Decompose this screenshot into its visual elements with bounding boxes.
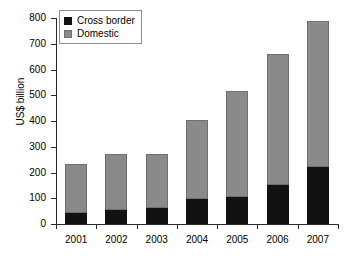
x-tick — [56, 224, 57, 229]
bar-segment-cross-border — [226, 197, 248, 224]
stacked-bar-chart: US$ billion 0100200300400500600700800 20… — [0, 0, 344, 259]
y-tick-label: 800 — [12, 13, 46, 23]
x-tick — [257, 224, 258, 229]
x-tick-label: 2006 — [255, 234, 301, 245]
plot-area: 0100200300400500600700800 20012002200320… — [56, 18, 338, 224]
x-tick — [137, 224, 138, 229]
bar-segment-domestic — [307, 21, 329, 168]
x-tick — [338, 224, 339, 229]
y-tick — [51, 18, 56, 19]
x-tick-label: 2005 — [214, 234, 260, 245]
x-tick-label: 2002 — [93, 234, 139, 245]
y-tick-label: 400 — [12, 116, 46, 126]
bar-segment-cross-border — [105, 210, 127, 224]
bar-segment-cross-border — [186, 199, 208, 224]
bar-2005 — [226, 18, 248, 224]
bar-segment-cross-border — [65, 213, 87, 224]
legend-swatch-domestic — [64, 30, 72, 38]
x-tick-label: 2004 — [174, 234, 220, 245]
y-tick — [51, 147, 56, 148]
legend-swatch-cross-border — [64, 17, 72, 25]
y-tick — [51, 198, 56, 199]
bar-2003 — [146, 18, 168, 224]
x-tick-label: 2007 — [295, 234, 341, 245]
bar-2002 — [105, 18, 127, 224]
y-tick — [51, 173, 56, 174]
bar-2007 — [307, 18, 329, 224]
bar-segment-cross-border — [267, 185, 289, 224]
legend-label-domestic: Domestic — [77, 28, 119, 39]
y-tick — [51, 121, 56, 122]
y-tick — [51, 95, 56, 96]
bar-segment-cross-border — [146, 208, 168, 224]
bar-segment-domestic — [267, 54, 289, 185]
y-axis-line — [56, 18, 57, 225]
bar-segment-domestic — [186, 120, 208, 199]
x-tick — [298, 224, 299, 229]
bar-2006 — [267, 18, 289, 224]
y-tick-label: 100 — [12, 193, 46, 203]
legend-item-domestic: Domestic — [64, 27, 135, 40]
bar-segment-domestic — [226, 91, 248, 197]
y-tick-label: 600 — [12, 65, 46, 75]
bar-2001 — [65, 18, 87, 224]
x-tick — [96, 224, 97, 229]
legend-label-cross-border: Cross border — [77, 15, 135, 26]
y-tick-label: 200 — [12, 168, 46, 178]
x-axis-line — [56, 224, 339, 225]
y-tick-label: 700 — [12, 39, 46, 49]
y-tick-label: 300 — [12, 142, 46, 152]
x-tick-label: 2003 — [134, 234, 180, 245]
chart-legend: Cross border Domestic — [59, 10, 142, 44]
x-tick — [217, 224, 218, 229]
bar-segment-domestic — [105, 154, 127, 210]
bar-segment-cross-border — [307, 167, 329, 224]
y-tick-label: 0 — [12, 219, 46, 229]
y-tick — [51, 44, 56, 45]
bar-segment-domestic — [146, 154, 168, 208]
x-tick-label: 2001 — [53, 234, 99, 245]
y-tick — [51, 70, 56, 71]
legend-item-cross-border: Cross border — [64, 14, 135, 27]
bar-segment-domestic — [65, 164, 87, 213]
bar-2004 — [186, 18, 208, 224]
x-tick — [177, 224, 178, 229]
y-tick-label: 500 — [12, 90, 46, 100]
